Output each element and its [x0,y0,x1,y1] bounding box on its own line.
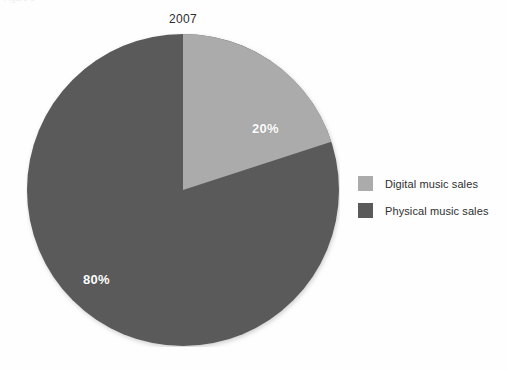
figure-caption-remnant: Figure 1 [4,0,35,3]
pie-label-physical: 80% [83,272,110,287]
pie-chart-svg [26,33,340,347]
legend-item-digital[interactable]: Digital music sales [358,170,504,197]
legend-swatch-digital [358,176,373,191]
pie-chart: 20% 80% [26,33,340,347]
legend-swatch-physical [358,203,373,218]
legend-label-digital: Digital music sales [385,178,478,190]
chart-title: 2007 [0,12,366,26]
chart-legend: Digital music sales Physical music sales [358,170,504,224]
legend-label-physical: Physical music sales [385,205,488,217]
pie-label-digital: 20% [252,121,279,136]
figure-root: Figure 1 2007 20% 80% Digital music sale… [0,0,507,370]
legend-item-physical[interactable]: Physical music sales [358,197,504,224]
pie-slices-group [27,34,339,346]
